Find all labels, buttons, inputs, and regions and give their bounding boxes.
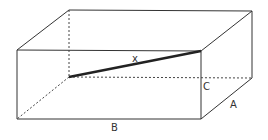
hidden-bottom-left-depth [17,77,69,119]
top-left-edge [17,10,69,50]
prism-diagram: x C A B [0,0,268,140]
front-face [17,50,201,119]
label-a: A [230,99,237,110]
hidden-back-bottom [69,77,252,78]
prism-svg: x C A B [0,0,268,140]
label-c: C [203,81,210,92]
label-b: B [111,122,118,133]
label-x: x [132,53,138,64]
top-back-edge [69,10,252,11]
top-right-edge [201,11,252,51]
